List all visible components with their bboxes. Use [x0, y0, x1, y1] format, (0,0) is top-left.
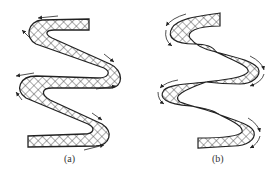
- diagram-canvas: [0, 0, 277, 174]
- twisted-band-b-3: [162, 82, 218, 114]
- panel-b: [158, 13, 264, 148]
- panel-a: [16, 16, 121, 150]
- twisted-band-b-4: [198, 114, 254, 148]
- panel-label-a: (a): [64, 153, 75, 164]
- panel-label-b: (b): [212, 153, 224, 164]
- twisted-band-b-1: [170, 13, 220, 52]
- zigzag-band-a: [20, 19, 121, 147]
